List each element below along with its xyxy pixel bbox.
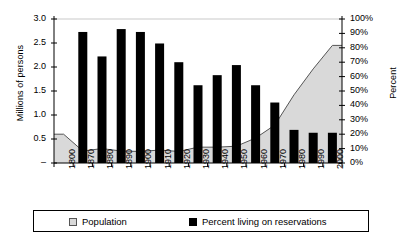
percent-swatch-icon bbox=[189, 218, 197, 226]
x-axis-tick-label: 1800 bbox=[68, 149, 77, 169]
x-axis-tick-label: 1940 bbox=[221, 149, 230, 169]
legend-label-percent: Percent living on reservations bbox=[202, 215, 327, 228]
x-axis-tick-label: 1880 bbox=[106, 149, 115, 169]
x-axis-tick-label: 1910 bbox=[164, 149, 173, 169]
x-axis-tick-label: 1960 bbox=[260, 149, 269, 169]
x-axis-tick-label: 1900 bbox=[144, 149, 153, 169]
x-axis-tick-label: 1990 bbox=[317, 149, 326, 169]
chart-legend: Population Percent living on reservation… bbox=[33, 210, 369, 232]
x-axis-ticks: 1800187018801890190019101920193019401950… bbox=[0, 0, 401, 242]
population-swatch-icon bbox=[69, 218, 77, 226]
x-axis-tick-label: 1870 bbox=[87, 149, 96, 169]
x-axis-tick-label: 1970 bbox=[279, 149, 288, 169]
x-axis-tick-label: 1920 bbox=[183, 149, 192, 169]
x-axis-tick-label: 1980 bbox=[298, 149, 307, 169]
chart-container: Millions of persons Percent –0.51.01.52.… bbox=[0, 0, 401, 242]
legend-item-percent: Percent living on reservations bbox=[189, 215, 327, 228]
legend-label-population: Population bbox=[82, 215, 127, 228]
x-axis-tick-label: 2000 bbox=[336, 149, 345, 169]
x-axis-tick-label: 1950 bbox=[240, 149, 249, 169]
x-axis-tick-label: 1930 bbox=[202, 149, 211, 169]
legend-item-population: Population bbox=[69, 215, 127, 228]
x-axis-tick-label: 1890 bbox=[125, 149, 134, 169]
